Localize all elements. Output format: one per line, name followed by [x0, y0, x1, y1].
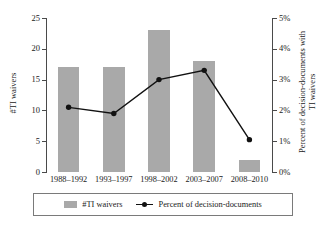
right-tick-label-3: 3% — [279, 75, 290, 84]
left-tick-label-0: 0 — [0, 168, 40, 177]
line-marker-0 — [66, 105, 71, 110]
bar-swatch-icon — [64, 201, 77, 208]
x-tick-label-4: 2008–2010 — [227, 175, 272, 184]
right-tick-label-0: 0% — [279, 168, 290, 177]
right-axis-spine — [272, 18, 273, 173]
line-marker-4 — [247, 137, 252, 142]
left-tick-label-1: 5 — [0, 137, 40, 146]
left-tick-label-5: 25 — [0, 14, 40, 23]
chart-legend: #TI waivers Percent of decision-document… — [33, 193, 293, 216]
right-tick-1 — [273, 141, 277, 142]
line-marker-3 — [202, 68, 207, 73]
left-axis-label: #TI waivers — [8, 58, 18, 128]
right-axis-label-line2: TI waivers — [307, 74, 317, 111]
x-tick-label-2: 1998–2002 — [136, 175, 181, 184]
right-tick-0 — [273, 172, 277, 173]
left-tick-0 — [42, 172, 46, 173]
right-axis-label-line1: Percent of decision-documents with — [297, 31, 307, 153]
line-marker-swatch-icon — [136, 201, 153, 208]
left-tick-label-4: 20 — [0, 44, 40, 53]
right-tick-4 — [273, 49, 277, 50]
legend-label-bars: #TI waivers — [82, 200, 122, 209]
right-tick-3 — [273, 80, 277, 81]
right-tick-label-2: 2% — [279, 106, 290, 115]
legend-label-line: Percent of decision-documents — [158, 200, 261, 209]
x-tick-label-0: 1988–1992 — [46, 175, 91, 184]
legend-item-line: Percent of decision-documents — [136, 200, 261, 209]
right-tick-label-4: 4% — [279, 44, 290, 53]
right-tick-label-5: 5% — [279, 14, 290, 23]
right-tick-2 — [273, 110, 277, 111]
line-marker-1 — [111, 111, 116, 116]
line-series — [46, 18, 272, 172]
x-tick-label-1: 1993–1997 — [91, 175, 136, 184]
chart-title-cropped — [0, 0, 326, 7]
line-marker-2 — [156, 77, 161, 82]
right-tick-5 — [273, 18, 277, 19]
chart-figure: 0510152025 0%1%2%3%4%5% #TI waivers Perc… — [0, 0, 326, 226]
left-tick-label-3: 15 — [0, 75, 40, 84]
right-axis-label: Percent of decision-documents with TI wa… — [297, 27, 317, 157]
x-tick-label-3: 2003–2007 — [182, 175, 227, 184]
right-tick-label-1: 1% — [279, 137, 290, 146]
left-tick-label-2: 10 — [0, 106, 40, 115]
legend-item-bars: #TI waivers — [64, 200, 122, 209]
